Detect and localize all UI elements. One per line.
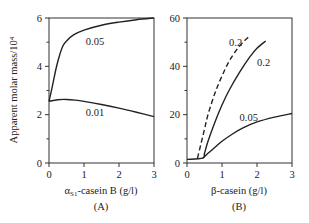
- panel-a-series: [49, 18, 154, 117]
- series-annotation: 0.2: [229, 37, 242, 48]
- x-tick-label: 2: [254, 169, 259, 180]
- panel-b: 0204060 0123 0.20.20.05 β-casein (g/l) (…: [170, 13, 295, 214]
- panel-b-x-axis-label: β-casein (g/l): [211, 185, 267, 197]
- series-line: [49, 18, 154, 101]
- panel-a-label: (A): [94, 201, 109, 213]
- y-tick-label: 6: [37, 13, 42, 24]
- panel-a-x-ticks: 0123: [46, 163, 156, 180]
- panel-a-annotations: 0.050.01: [86, 36, 104, 118]
- panel-b-y-ticks: 0204060: [170, 13, 188, 169]
- x-tick-label: 3: [289, 169, 294, 180]
- series-line: [187, 41, 266, 159]
- chart-canvas: 0246 0123 0.050.01 Apparent molar mass/1…: [0, 0, 309, 223]
- panel-a-y-ticks: 0246: [37, 13, 49, 169]
- series-annotation: 0.2: [257, 57, 270, 68]
- panel-b-x-ticks: 0123: [184, 163, 294, 180]
- panel-a-y-axis-label: Apparent molar mass/10⁴: [8, 36, 19, 143]
- x-tick-label: 0: [184, 169, 189, 180]
- panel-a-x-axis-label: αS1-casein B (g/l): [65, 185, 138, 198]
- x-tick-label: 3: [151, 169, 156, 180]
- panel-b-label: (B): [232, 201, 247, 213]
- x-tick-label: 2: [116, 169, 121, 180]
- panel-b-series: [187, 37, 292, 159]
- y-tick-label: 0: [37, 158, 42, 169]
- series-annotation: 0.05: [86, 36, 104, 47]
- y-tick-label: 60: [170, 13, 181, 24]
- y-tick-label: 4: [37, 61, 43, 72]
- panel-a: 0246 0123 0.050.01 Apparent molar mass/1…: [8, 13, 157, 214]
- y-tick-label: 0: [175, 158, 180, 169]
- x-tick-label: 1: [219, 169, 224, 180]
- x-tick-label: 0: [46, 169, 51, 180]
- y-tick-label: 2: [37, 109, 42, 120]
- y-tick-label: 40: [170, 61, 181, 72]
- series-annotation: 0.01: [86, 107, 104, 118]
- y-tick-label: 20: [170, 109, 181, 120]
- x-tick-label: 1: [81, 169, 86, 180]
- series-annotation: 0.05: [240, 112, 258, 123]
